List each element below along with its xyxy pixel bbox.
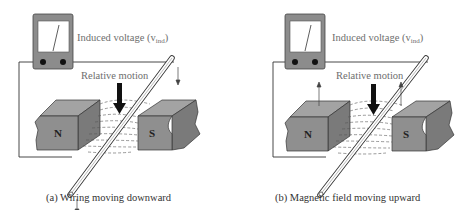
south-pole-label: S — [149, 127, 155, 139]
panel-b: N S — [240, 0, 473, 210]
south-pole-label: S — [403, 128, 409, 140]
relative-motion-arrow — [367, 84, 380, 115]
caption: (b) Magnetic field moving upward — [275, 192, 420, 203]
north-magnet: N — [35, 100, 100, 150]
caption: (a) Wiring moving downward — [46, 192, 171, 203]
panel-a: N S — [0, 0, 236, 210]
meter-label: Induced voltage (vind) — [77, 32, 168, 45]
relative-motion-label: Relative motion — [81, 70, 148, 81]
relative-motion-arrow — [113, 83, 126, 114]
south-magnet: S — [392, 101, 454, 151]
terminal-right — [312, 59, 318, 65]
terminal-left — [292, 59, 298, 65]
voltmeter — [285, 14, 325, 69]
meter-label: Induced voltage (vind) — [332, 32, 423, 45]
south-magnet: S — [138, 100, 200, 150]
north-magnet: N — [285, 101, 350, 151]
relative-motion-label: Relative motion — [336, 70, 403, 81]
terminal-right — [60, 59, 66, 65]
terminal-left — [40, 59, 46, 65]
north-pole-label: N — [304, 128, 312, 140]
voltmeter — [33, 14, 73, 69]
north-pole-label: N — [54, 127, 62, 139]
